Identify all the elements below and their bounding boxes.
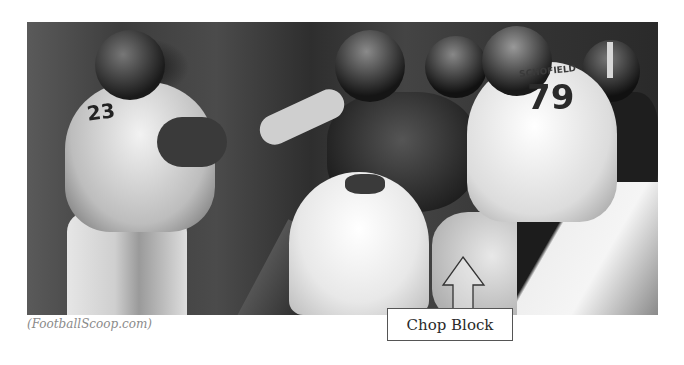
photo-credit: (FootballScoop.com): [27, 317, 152, 331]
back-number: [345, 174, 385, 194]
jersey-number-79: 79: [527, 77, 574, 117]
center-player-helmet: [335, 30, 405, 102]
chop-block-label: Chop Block: [387, 308, 513, 341]
second-center-helmet: [425, 36, 487, 98]
jersey-number-23: 23: [85, 98, 116, 126]
up-arrow-icon: [440, 255, 488, 311]
helmet-stripe: [607, 42, 613, 78]
football-photo: 23 SCHOFIELD 79: [27, 22, 658, 315]
player-23-arm: [157, 117, 227, 167]
player-23-helmet: [95, 30, 165, 100]
